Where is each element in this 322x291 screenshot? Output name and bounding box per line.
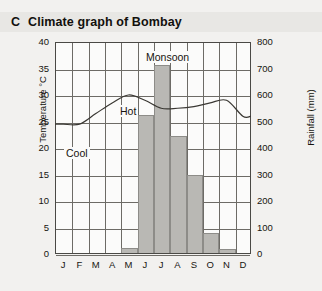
month-label: J — [55, 259, 71, 270]
month-label: N — [219, 259, 235, 270]
right-tick-label: 500 — [257, 116, 283, 127]
left-tick-label: 25 — [27, 116, 49, 127]
right-tick-label: 200 — [257, 195, 283, 206]
season-label-cool: Cool — [64, 147, 90, 159]
rainfall-bar — [170, 136, 186, 253]
right-tick-label: 0 — [257, 248, 283, 259]
left-tick-label: 15 — [27, 169, 49, 180]
right-tick-label: 300 — [257, 169, 283, 180]
season-label-monsoon: Monsoon — [144, 51, 191, 63]
left-tick-label: 35 — [27, 63, 49, 74]
left-tick-label: 0 — [27, 248, 49, 259]
month-label: A — [104, 259, 120, 270]
left-tick-label: 30 — [27, 89, 49, 100]
month-label: M — [88, 259, 104, 270]
gridline-horizontal — [56, 255, 250, 256]
month-label: A — [170, 259, 186, 270]
gridline-vertical — [121, 43, 122, 253]
rainfall-bar — [138, 115, 154, 253]
rainfall-bar — [203, 233, 219, 253]
month-label: F — [72, 259, 88, 270]
panel-letter: C — [11, 15, 20, 29]
gridline-vertical — [105, 43, 106, 253]
climate-graph-figure: C Climate graph of Bombay Temperature °C… — [0, 0, 322, 291]
gridline-vertical — [236, 43, 237, 253]
left-tick-label: 20 — [27, 142, 49, 153]
right-tick-label: 700 — [257, 63, 283, 74]
plot-area: CoolHotMonsoon — [55, 42, 251, 254]
month-label: D — [235, 259, 251, 270]
figure-title-bar: C Climate graph of Bombay — [0, 12, 322, 32]
month-label: M — [121, 259, 137, 270]
gridline-horizontal — [56, 96, 250, 97]
gridline-vertical — [219, 43, 220, 253]
rainfall-bar — [187, 175, 203, 253]
month-label: O — [202, 259, 218, 270]
left-tick-label: 40 — [27, 36, 49, 47]
month-label: J — [137, 259, 153, 270]
left-tick-label: 10 — [27, 195, 49, 206]
right-tick-label: 100 — [257, 222, 283, 233]
right-tick-label: 400 — [257, 142, 283, 153]
gridline-horizontal — [56, 70, 250, 71]
right-tick-label: 800 — [257, 36, 283, 47]
left-tick-label: 5 — [27, 222, 49, 233]
page-title: Climate graph of Bombay — [28, 15, 182, 29]
month-label: S — [186, 259, 202, 270]
gridline-vertical — [203, 43, 204, 253]
rainfall-bar — [121, 248, 137, 253]
month-label: J — [153, 259, 169, 270]
right-tick-label: 600 — [257, 89, 283, 100]
rainfall-bar — [219, 249, 235, 253]
season-label-hot: Hot — [118, 105, 138, 117]
right-axis-title: Rainfall (mm) — [305, 80, 316, 156]
rainfall-bar — [154, 65, 170, 253]
